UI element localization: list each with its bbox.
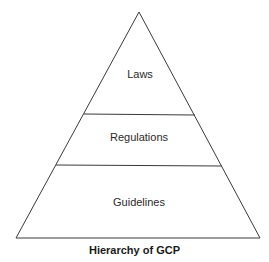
level-guidelines-label: Guidelines	[113, 196, 165, 208]
diagram-caption: Hierarchy of GCP	[89, 244, 180, 256]
level-laws-label: Laws	[127, 68, 153, 80]
divider-regulations-guidelines	[56, 165, 222, 166]
level-regulations-label: Regulations	[110, 131, 168, 143]
divider-laws-regulations	[84, 114, 195, 115]
